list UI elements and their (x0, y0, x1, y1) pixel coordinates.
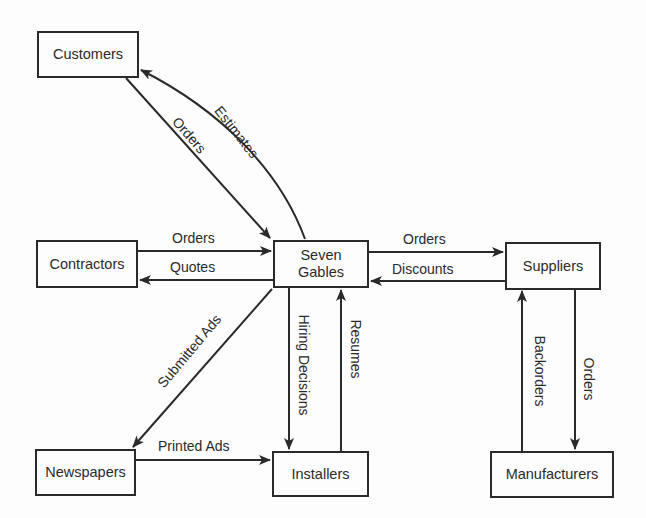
edge-label-printed-ads: Printed Ads (158, 438, 230, 454)
node-label: Newspapers (45, 464, 126, 481)
node-label: Manufacturers (506, 466, 599, 483)
node-contractors: Contractors (36, 240, 138, 288)
node-label: Installers (291, 466, 349, 483)
edge-label-backorders: Backorders (532, 336, 548, 407)
edge-label-hiring-decisions: Hiring Decisions (296, 314, 312, 415)
node-installers: Installers (272, 451, 369, 497)
edge-submitted-ads (133, 289, 272, 447)
node-label: Suppliers (523, 258, 583, 275)
node-manufacturers: Manufacturers (490, 451, 614, 498)
node-label: Customers (53, 46, 123, 63)
node-suppliers: Suppliers (505, 242, 601, 290)
edge-label-discounts: Discounts (392, 261, 453, 277)
node-label-line2: Gables (298, 264, 344, 281)
edge-label-suppliers-orders: Orders (403, 231, 446, 247)
edge-estimates (141, 70, 305, 239)
edge-label-resumes: Resumes (348, 319, 364, 378)
edge-label-quotes: Quotes (170, 259, 215, 275)
edge-label-manufacturers-orders: Orders (581, 358, 597, 401)
edge-label-contractors-orders: Orders (172, 230, 215, 246)
node-label-line1: Seven (300, 247, 341, 264)
node-customers: Customers (37, 31, 139, 78)
node-label: Contractors (50, 256, 125, 273)
node-seven-gables: Seven Gables (273, 240, 369, 288)
node-newspapers: Newspapers (35, 449, 136, 496)
